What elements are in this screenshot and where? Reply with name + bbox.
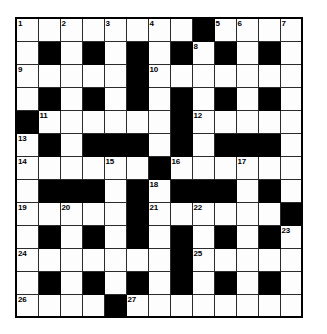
open-letter-cell[interactable] (236, 271, 258, 294)
open-letter-cell[interactable]: 24 (16, 248, 38, 271)
open-letter-cell[interactable] (280, 64, 302, 87)
open-letter-cell[interactable]: 12 (192, 110, 214, 133)
open-letter-cell[interactable] (60, 271, 82, 294)
open-letter-cell[interactable]: 21 (148, 202, 170, 225)
open-letter-cell[interactable] (170, 18, 192, 41)
open-letter-cell[interactable]: 13 (16, 133, 38, 156)
open-letter-cell[interactable] (192, 156, 214, 179)
open-letter-cell[interactable] (104, 41, 126, 64)
open-letter-cell[interactable] (192, 87, 214, 110)
open-letter-cell[interactable] (214, 64, 236, 87)
open-letter-cell[interactable] (148, 110, 170, 133)
open-letter-cell[interactable] (214, 156, 236, 179)
open-letter-cell[interactable] (214, 110, 236, 133)
open-letter-cell[interactable] (60, 225, 82, 248)
open-letter-cell[interactable]: 27 (126, 294, 148, 317)
open-letter-cell[interactable] (280, 41, 302, 64)
open-letter-cell[interactable] (104, 202, 126, 225)
open-letter-cell[interactable]: 16 (170, 156, 192, 179)
crossword-grid[interactable]: 1234567891011121314151617181920212223242… (15, 17, 303, 318)
open-letter-cell[interactable]: 20 (60, 202, 82, 225)
open-letter-cell[interactable] (126, 18, 148, 41)
open-letter-cell[interactable]: 3 (104, 18, 126, 41)
open-letter-cell[interactable]: 10 (148, 64, 170, 87)
open-letter-cell[interactable] (236, 87, 258, 110)
open-letter-cell[interactable] (60, 156, 82, 179)
open-letter-cell[interactable]: 6 (236, 18, 258, 41)
open-letter-cell[interactable] (258, 248, 280, 271)
open-letter-cell[interactable] (82, 248, 104, 271)
open-letter-cell[interactable] (280, 248, 302, 271)
open-letter-cell[interactable]: 23 (280, 225, 302, 248)
open-letter-cell[interactable] (214, 294, 236, 317)
open-letter-cell[interactable] (126, 156, 148, 179)
open-letter-cell[interactable] (148, 271, 170, 294)
open-letter-cell[interactable]: 15 (104, 156, 126, 179)
open-letter-cell[interactable] (280, 271, 302, 294)
open-letter-cell[interactable] (16, 225, 38, 248)
open-letter-cell[interactable] (60, 294, 82, 317)
open-letter-cell[interactable] (38, 294, 60, 317)
open-letter-cell[interactable] (280, 133, 302, 156)
open-letter-cell[interactable] (82, 64, 104, 87)
open-letter-cell[interactable] (82, 202, 104, 225)
open-letter-cell[interactable] (16, 87, 38, 110)
open-letter-cell[interactable] (38, 18, 60, 41)
open-letter-cell[interactable] (148, 87, 170, 110)
open-letter-cell[interactable] (258, 18, 280, 41)
open-letter-cell[interactable] (236, 248, 258, 271)
open-letter-cell[interactable] (236, 202, 258, 225)
open-letter-cell[interactable] (126, 248, 148, 271)
open-letter-cell[interactable] (214, 248, 236, 271)
open-letter-cell[interactable] (192, 271, 214, 294)
open-letter-cell[interactable] (104, 248, 126, 271)
open-letter-cell[interactable] (82, 18, 104, 41)
open-letter-cell[interactable] (258, 156, 280, 179)
open-letter-cell[interactable] (192, 64, 214, 87)
open-letter-cell[interactable] (148, 225, 170, 248)
open-letter-cell[interactable] (192, 294, 214, 317)
open-letter-cell[interactable]: 7 (280, 18, 302, 41)
open-letter-cell[interactable] (104, 87, 126, 110)
open-letter-cell[interactable] (60, 110, 82, 133)
open-letter-cell[interactable] (236, 179, 258, 202)
open-letter-cell[interactable] (280, 110, 302, 133)
open-letter-cell[interactable]: 4 (148, 18, 170, 41)
open-letter-cell[interactable] (280, 156, 302, 179)
open-letter-cell[interactable] (280, 179, 302, 202)
open-letter-cell[interactable] (16, 41, 38, 64)
open-letter-cell[interactable] (104, 110, 126, 133)
open-letter-cell[interactable] (104, 225, 126, 248)
open-letter-cell[interactable] (280, 87, 302, 110)
open-letter-cell[interactable] (214, 202, 236, 225)
open-letter-cell[interactable] (60, 41, 82, 64)
open-letter-cell[interactable] (16, 271, 38, 294)
open-letter-cell[interactable] (60, 248, 82, 271)
open-letter-cell[interactable] (258, 64, 280, 87)
open-letter-cell[interactable] (148, 41, 170, 64)
open-letter-cell[interactable] (236, 225, 258, 248)
open-letter-cell[interactable]: 8 (192, 41, 214, 64)
open-letter-cell[interactable]: 18 (148, 179, 170, 202)
open-letter-cell[interactable] (104, 271, 126, 294)
open-letter-cell[interactable] (38, 202, 60, 225)
open-letter-cell[interactable] (16, 179, 38, 202)
open-letter-cell[interactable]: 1 (16, 18, 38, 41)
open-letter-cell[interactable] (104, 179, 126, 202)
open-letter-cell[interactable] (170, 64, 192, 87)
open-letter-cell[interactable] (192, 225, 214, 248)
open-letter-cell[interactable] (38, 156, 60, 179)
open-letter-cell[interactable] (126, 110, 148, 133)
open-letter-cell[interactable] (192, 133, 214, 156)
open-letter-cell[interactable] (258, 202, 280, 225)
open-letter-cell[interactable] (82, 110, 104, 133)
open-letter-cell[interactable] (258, 294, 280, 317)
open-letter-cell[interactable] (148, 133, 170, 156)
open-letter-cell[interactable] (60, 87, 82, 110)
open-letter-cell[interactable]: 2 (60, 18, 82, 41)
open-letter-cell[interactable] (170, 202, 192, 225)
open-letter-cell[interactable]: 5 (214, 18, 236, 41)
open-letter-cell[interactable] (170, 294, 192, 317)
open-letter-cell[interactable]: 22 (192, 202, 214, 225)
open-letter-cell[interactable]: 26 (16, 294, 38, 317)
